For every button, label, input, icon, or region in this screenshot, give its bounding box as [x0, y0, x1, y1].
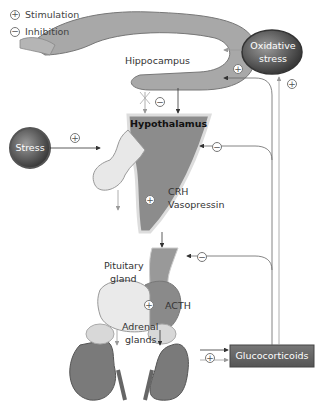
hypothalamus-label: Hypothalamus	[130, 118, 207, 130]
oxidative-stress-label-2: stress	[247, 53, 299, 65]
hippocampus-label: Hippocampus	[125, 55, 190, 67]
legend-stimulation-label: Stimulation	[25, 9, 79, 20]
feedback-hypothalamus-minus-icon: −	[212, 142, 222, 152]
vasopressin-label: Vasopressin	[168, 199, 224, 211]
crh-plus-icon: +	[145, 195, 155, 205]
oxidative-stress-node	[242, 30, 302, 74]
legend-inhibition: − Inhibition	[10, 26, 69, 37]
feedback-pituitary-minus-icon: −	[197, 252, 207, 262]
pituitary-label-2: gland	[110, 273, 137, 285]
minus-icon: −	[10, 27, 20, 37]
hippocampus-minus-icon: −	[155, 97, 165, 107]
stress-plus-icon: +	[70, 133, 80, 143]
acth-plus-icon: +	[144, 300, 154, 310]
legend-inhibition-label: Inhibition	[25, 26, 69, 37]
hippocampus-shape	[20, 12, 256, 90]
feedback-hippocampus-plus-icon: +	[233, 64, 243, 74]
hypothalamus-shape	[93, 115, 210, 232]
pituitary-label-1: Pituitary	[104, 260, 144, 272]
gluco-plus-icon: +	[205, 353, 215, 363]
crh-label: CRH	[168, 186, 188, 198]
glucocorticoids-label: Glucocorticoids	[230, 350, 314, 362]
acth-label: ACTH	[165, 300, 191, 312]
legend-stimulation: + Stimulation	[10, 9, 79, 20]
adrenal-label-1: Adrenal	[122, 321, 158, 333]
adrenal-label-2: glands	[125, 334, 157, 346]
plus-icon: +	[10, 10, 20, 20]
oxidative-stress-label-1: Oxidative	[247, 40, 299, 52]
feedback-oxidative-plus-icon: +	[287, 79, 297, 89]
stress-label: Stress	[12, 142, 48, 154]
